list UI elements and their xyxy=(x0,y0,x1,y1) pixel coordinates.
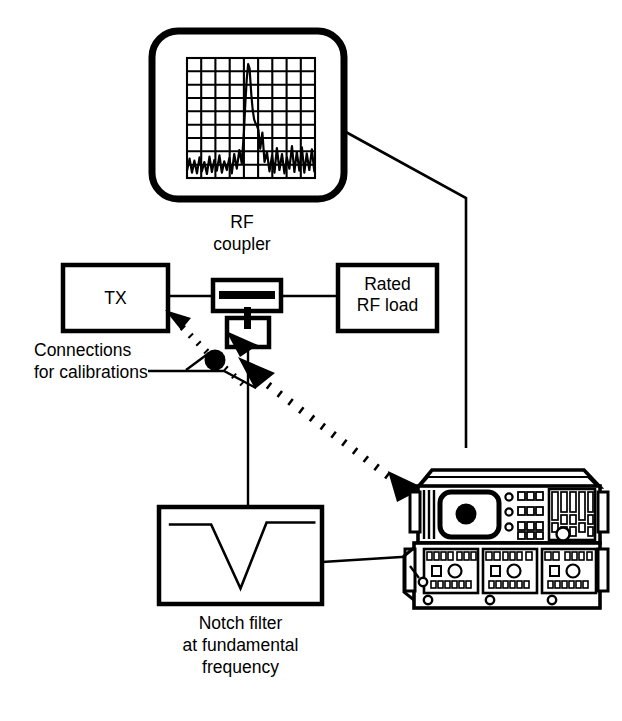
receiver-module-2 xyxy=(483,549,537,593)
diagram-canvas: RF coupler TX Rated RF load xyxy=(0,0,622,721)
rf-coupler-label-line1: RF xyxy=(230,212,253,232)
connections-note-line2: for calibrations xyxy=(34,362,148,382)
coupler-tap-stub xyxy=(244,307,251,329)
rf-coupler-label-line2: coupler xyxy=(213,234,271,254)
receiver-right-handle xyxy=(598,549,608,591)
notch-filter-label-line1: Notch filter xyxy=(199,613,283,633)
receiver-module-2-knob xyxy=(508,565,521,578)
receiver-module-3-knob xyxy=(567,565,580,578)
notch-filter-label-line2: at fundamental xyxy=(183,635,299,655)
spectrum-display xyxy=(152,31,344,199)
analyzer-round-buttons xyxy=(505,493,512,530)
analyzer-left-handle xyxy=(410,492,420,532)
analyzer-knob xyxy=(557,528,570,541)
analyzer-screen-marker-dot xyxy=(456,504,477,525)
receiver-module-2-display xyxy=(491,566,500,576)
receiver-module-1-top-keys xyxy=(427,552,476,560)
notch-filter-label-line3: frequency xyxy=(202,657,279,677)
receiver-module-1-display xyxy=(432,566,441,576)
analyzer-right-handle xyxy=(598,492,608,532)
receiver-module-1 xyxy=(424,549,478,593)
rf-measurement-diagram: RF coupler TX Rated RF load xyxy=(0,0,622,721)
rated-load-label-line2: RF load xyxy=(357,295,418,315)
coupler-through-bar xyxy=(219,291,275,299)
rated-load-block: Rated RF load xyxy=(338,265,437,331)
tx-label: TX xyxy=(104,288,127,308)
instrument-rack xyxy=(404,470,608,608)
tx-block: TX xyxy=(63,265,168,331)
receiver-module-1-knob xyxy=(449,565,462,578)
measuring-receiver xyxy=(404,543,608,608)
connections-note-line1: Connections xyxy=(34,340,132,360)
spectrum-analyzer xyxy=(410,470,608,543)
rated-load-label-line1: Rated xyxy=(364,274,411,294)
receiver-input-connector xyxy=(419,578,427,586)
receiver-module-3-display xyxy=(550,566,559,576)
receiver-module-3 xyxy=(542,549,596,593)
notch-filter-block: Notch filter at fundamental frequency xyxy=(159,507,322,677)
analyzer-button-rows xyxy=(518,492,543,539)
